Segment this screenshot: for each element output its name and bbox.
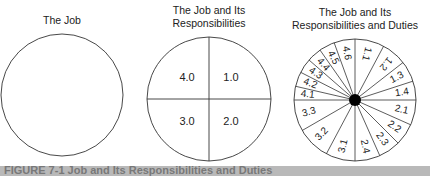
center-dot	[349, 94, 361, 106]
job-circle	[1, 34, 123, 156]
segment-label-2-4: 2.4	[359, 138, 373, 154]
figure: The Job The Job and Its Responsibilities…	[0, 0, 430, 176]
segment-label-1-4: 1.4	[394, 85, 410, 98]
pie-diagrams: 1.02.03.04.0 1.11.21.31.42.12.22.32.43.1…	[0, 0, 430, 176]
segment-label-4-6: 4.6	[341, 45, 354, 61]
segment-label-2-1: 2.1	[394, 102, 410, 116]
segment-label-3-0: 3.0	[179, 115, 194, 127]
segment-label-3-2: 3.2	[313, 124, 331, 142]
pie-the-job	[1, 34, 123, 156]
segment-label-1-1: 1.1	[360, 46, 374, 63]
segment-label-3-1: 3.1	[336, 137, 350, 154]
segment-label-2-0: 2.0	[223, 115, 238, 127]
segment-label-1-0: 1.0	[223, 71, 238, 83]
pie-responsibilities: 1.02.03.04.0	[147, 37, 271, 161]
pie-duties: 1.11.21.31.42.12.22.32.43.13.23.34.14.24…	[294, 39, 416, 161]
figure-caption-bar: FIGURE 7-1 Job and Its Responsibilities …	[0, 166, 430, 176]
figure-caption: FIGURE 7-1 Job and Its Responsibilities …	[4, 166, 272, 176]
segment-label-1-3: 1.3	[388, 69, 406, 85]
segment-label-4-0: 4.0	[179, 71, 194, 83]
segment-label-3-3: 3.3	[301, 104, 318, 118]
segment-label-2-3: 2.3	[374, 130, 391, 148]
